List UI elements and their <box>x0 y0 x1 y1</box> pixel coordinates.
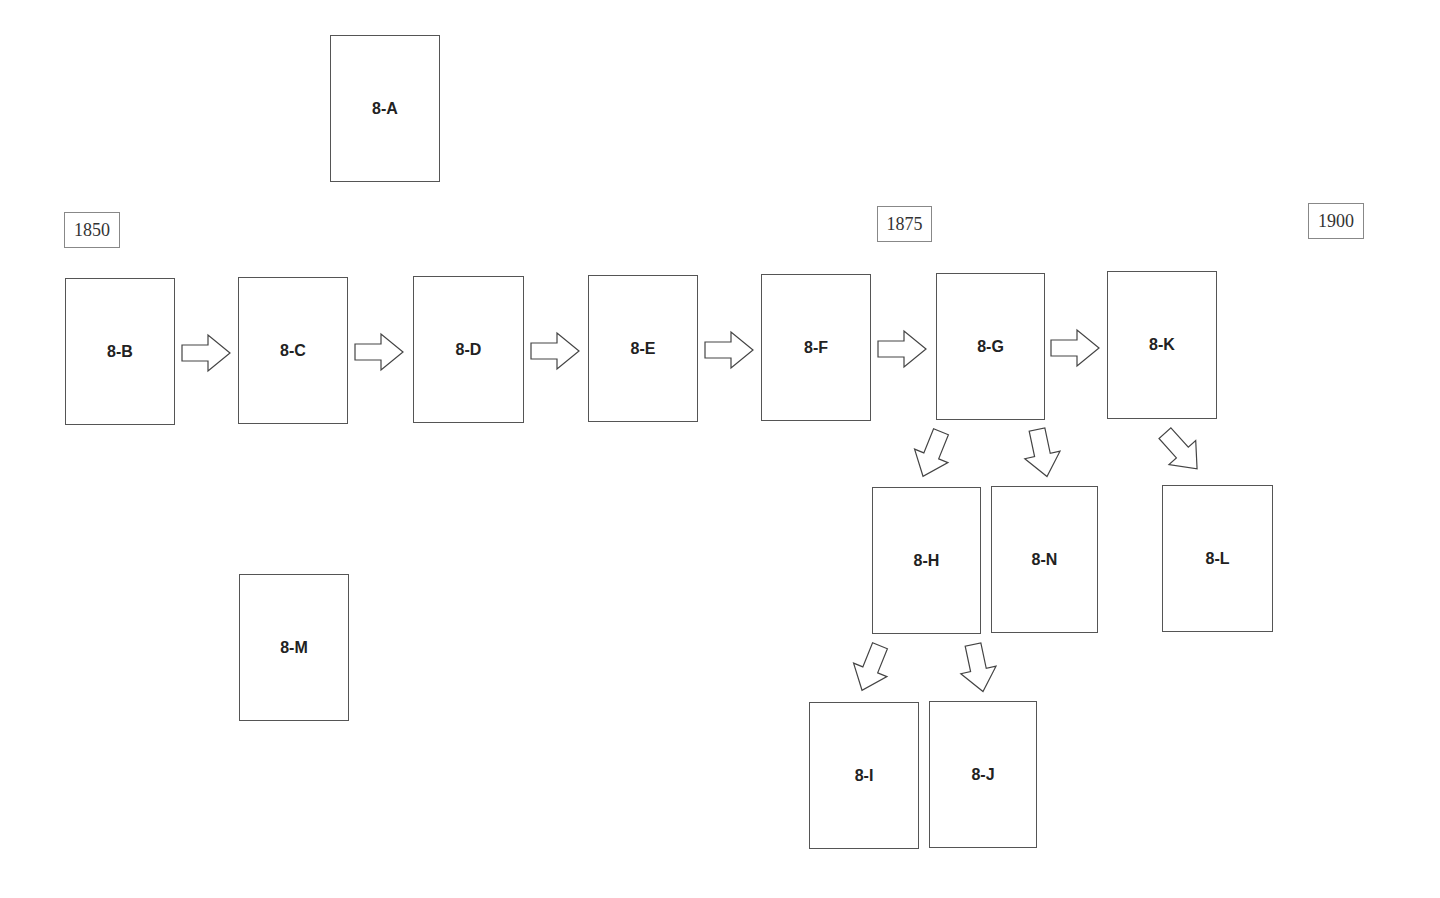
node-8-j: 8-J <box>929 701 1037 848</box>
block-arrow-icon <box>182 335 230 371</box>
node-8-c: 8-C <box>238 277 348 424</box>
block-arrow-icon <box>955 641 1000 695</box>
node-8-k: 8-K <box>1107 271 1217 419</box>
block-arrow-icon <box>1152 421 1211 481</box>
node-8-d: 8-D <box>413 276 524 423</box>
year-label-1850: 1850 <box>64 212 120 248</box>
node-label: 8-C <box>280 342 306 360</box>
node-8-b: 8-B <box>65 278 175 425</box>
node-label: 8-L <box>1206 550 1230 568</box>
node-label: 8-B <box>107 343 133 361</box>
node-8-h: 8-H <box>872 487 981 634</box>
year-label-1875: 1875 <box>877 206 932 242</box>
node-label: 8-J <box>971 766 994 784</box>
block-arrow-icon <box>355 334 403 370</box>
block-arrow-icon <box>845 639 896 697</box>
block-arrow-icon <box>1019 426 1064 480</box>
node-8-l: 8-L <box>1162 485 1273 632</box>
node-label: 8-H <box>914 552 940 570</box>
arrows-layer <box>0 0 1440 898</box>
node-8-m: 8-M <box>239 574 349 721</box>
block-arrow-icon <box>531 333 579 369</box>
node-label: 8-K <box>1149 336 1175 354</box>
node-8-f: 8-F <box>761 274 871 421</box>
block-arrow-icon <box>906 425 957 483</box>
node-label: 8-M <box>280 639 308 657</box>
node-8-g: 8-G <box>936 273 1045 420</box>
node-label: 8-F <box>804 339 828 357</box>
node-label: 8-A <box>372 100 398 118</box>
node-label: 8-E <box>631 340 656 358</box>
node-label: 8-G <box>977 338 1004 356</box>
node-8-i: 8-I <box>809 702 919 849</box>
node-8-e: 8-E <box>588 275 698 422</box>
node-label: 8-N <box>1032 551 1058 569</box>
node-8-n: 8-N <box>991 486 1098 633</box>
block-arrow-icon <box>1051 330 1099 366</box>
year-label-1900: 1900 <box>1308 203 1364 239</box>
block-arrow-icon <box>705 332 753 368</box>
node-label: 8-D <box>456 341 482 359</box>
node-label: 8-I <box>855 767 874 785</box>
block-arrow-icon <box>878 331 926 367</box>
node-8-a: 8-A <box>330 35 440 182</box>
